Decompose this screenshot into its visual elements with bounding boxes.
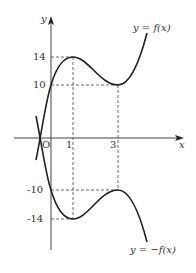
y-axis-label: y bbox=[41, 14, 47, 24]
y-tick-10: 10 bbox=[33, 80, 46, 90]
x-tick-3: 3 bbox=[110, 140, 116, 150]
curve-neg-f bbox=[36, 116, 147, 242]
graph-canvas bbox=[0, 0, 196, 273]
curve-f bbox=[36, 33, 147, 160]
curve-f-label: y = f(x) bbox=[133, 23, 171, 33]
y-tick-neg14: -14 bbox=[27, 214, 43, 224]
y-tick-neg10: -10 bbox=[27, 185, 43, 195]
x-axis-label: x bbox=[179, 140, 185, 150]
x-tick-1: 1 bbox=[66, 140, 72, 150]
y-tick-14: 14 bbox=[33, 52, 46, 62]
curve-neg-f-label: y = −f(x) bbox=[130, 245, 176, 255]
origin-label: O bbox=[42, 140, 50, 150]
